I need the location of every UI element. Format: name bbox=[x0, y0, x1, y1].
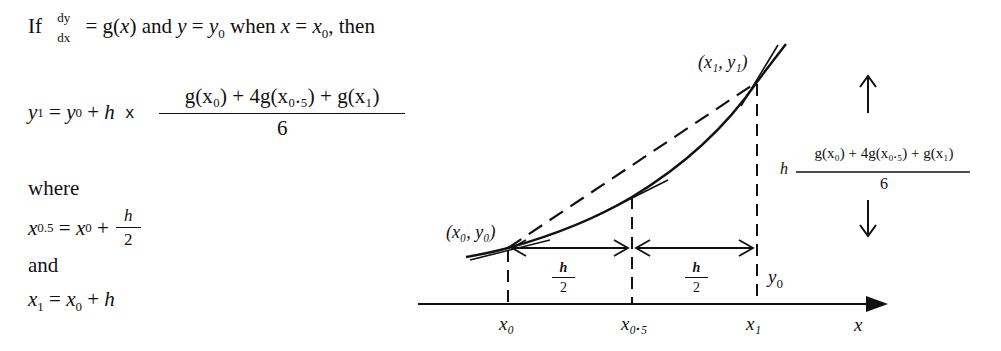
increment-numerator: g(x₀) + 4g(x₀.₅) + g(x₁) bbox=[800, 145, 968, 162]
x-axis-arrow-icon bbox=[866, 296, 888, 312]
point-start-label: (x₀, y₀) bbox=[446, 222, 495, 243]
tangent-mid bbox=[596, 180, 668, 216]
interval-num: h bbox=[558, 260, 570, 277]
axis-label-x0: x₀ bbox=[499, 313, 514, 335]
increment-h: h bbox=[780, 160, 788, 178]
increment-denominator: 6 bbox=[800, 175, 968, 193]
tangent-start bbox=[470, 240, 550, 260]
y0-label: y0 bbox=[768, 266, 783, 288]
interval-den: 2 bbox=[552, 277, 575, 296]
interval-label-right: h 2 bbox=[689, 260, 704, 296]
point-end-label: (x₁, y₁) bbox=[698, 52, 747, 73]
interval-num: h bbox=[691, 260, 703, 277]
interval-den: 2 bbox=[685, 277, 708, 296]
axis-label-x1: x₁ bbox=[746, 313, 761, 335]
axis-name-x: x bbox=[854, 314, 862, 336]
y0-sub: 0 bbox=[776, 276, 783, 291]
interval-label-left: h 2 bbox=[556, 260, 571, 296]
solution-curve bbox=[466, 44, 786, 257]
axis-label-x05: x₀.₅ bbox=[621, 313, 647, 335]
